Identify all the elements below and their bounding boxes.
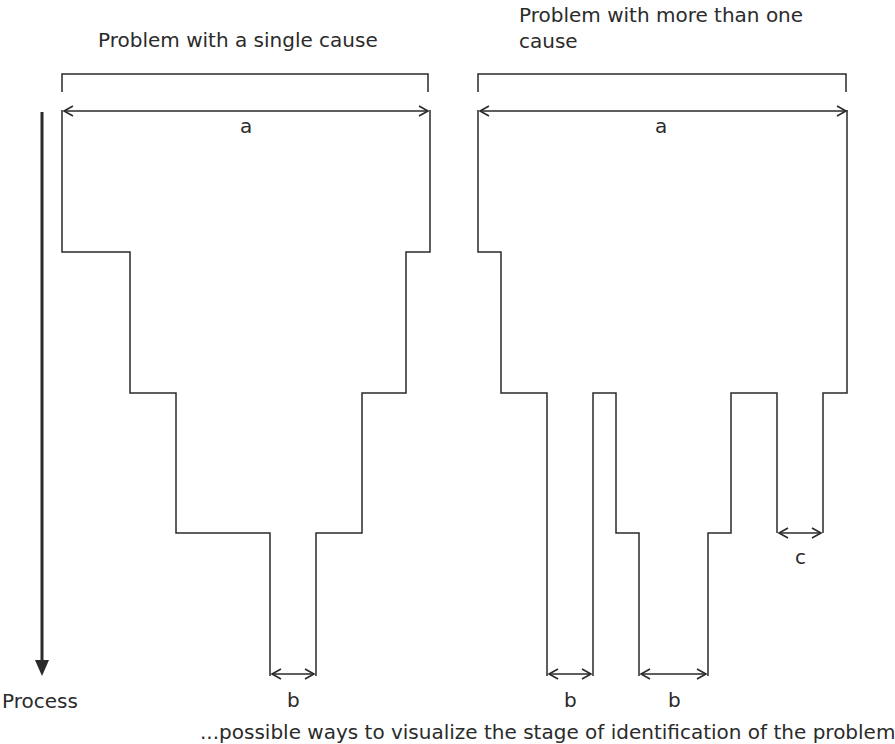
process-axis-label: Process [2,689,78,713]
right-funnel-outline [478,110,847,676]
left-bracket [62,74,428,92]
right-width-label-a: a [655,114,667,138]
left-width-label-a: a [240,114,252,138]
left-panel-title: Problem with a single cause [98,28,378,52]
figure-caption: ...possible ways to visualize the stage … [200,720,895,744]
left-narrow-label-b: b [287,688,300,712]
right-panel-title: Problem with more than one cause [519,2,819,54]
right-side-label-c: c [795,545,806,569]
right-narrow-label-b2: b [668,688,681,712]
right-narrow-label-b1: b [564,688,577,712]
right-bracket [478,74,846,92]
process-arrow [35,112,49,676]
left-funnel-outline [62,110,430,676]
